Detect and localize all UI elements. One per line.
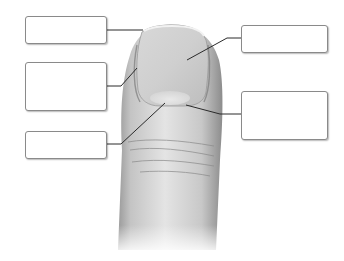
label-box-3[interactable] xyxy=(25,131,107,159)
label-box-5[interactable] xyxy=(241,91,328,140)
label-box-2[interactable] xyxy=(25,62,107,111)
label-box-4[interactable] xyxy=(241,25,328,53)
lunula xyxy=(150,91,190,105)
nail-anatomy-diagram xyxy=(0,0,344,261)
label-box-1[interactable] xyxy=(25,16,107,44)
